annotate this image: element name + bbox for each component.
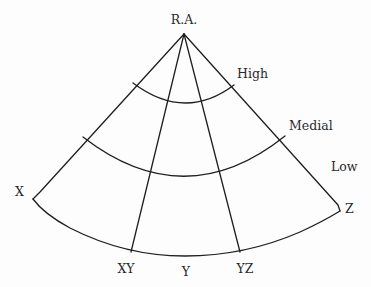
corner-label-z: Z [345, 201, 354, 216]
apex-label: R.A. [171, 12, 197, 27]
fan-diagram: R.A. High Medial Low X Z XY Y YZ [0, 0, 371, 287]
bottom-label-yz: YZ [236, 261, 254, 276]
band-label-low: Low [331, 159, 358, 174]
radial-line-yz [184, 34, 240, 252]
radial-line-xy [131, 34, 184, 252]
diagram-svg: R.A. High Medial Low X Z XY Y YZ [0, 0, 371, 287]
bottom-label-y: Y [181, 264, 191, 279]
bottom-label-xy: XY [117, 261, 135, 276]
band-label-medial: Medial [289, 118, 333, 133]
outer-bottom-arc [33, 199, 340, 256]
band-label-high: High [237, 66, 268, 81]
medial-arc [83, 136, 285, 176]
corner-label-x: X [15, 184, 24, 199]
high-arc [133, 83, 234, 103]
